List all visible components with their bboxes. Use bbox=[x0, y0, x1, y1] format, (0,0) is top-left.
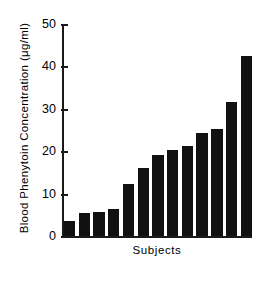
bar bbox=[167, 150, 178, 236]
x-axis-title: Subjects bbox=[62, 244, 252, 256]
y-axis-tick-label: 10 bbox=[42, 186, 56, 202]
bar bbox=[196, 133, 207, 236]
y-axis-tick: 0 bbox=[61, 236, 68, 238]
bar bbox=[226, 102, 237, 236]
bar bbox=[64, 221, 75, 236]
x-axis-line bbox=[62, 236, 252, 238]
bar bbox=[152, 155, 163, 236]
bar bbox=[123, 184, 134, 236]
bar bbox=[79, 213, 90, 236]
bar bbox=[182, 146, 193, 236]
y-axis-title: Blood Phenytoin Concentration (μg/ml) bbox=[14, 18, 34, 238]
y-axis-tick-label: 0 bbox=[49, 228, 56, 244]
y-axis-tick-label: 50 bbox=[42, 16, 56, 32]
y-axis-tick-label: 30 bbox=[42, 101, 56, 117]
bar-series bbox=[64, 24, 252, 236]
bar-chart-figure: Blood Phenytoin Concentration (μg/ml) 01… bbox=[0, 0, 265, 285]
y-axis-tick-label: 40 bbox=[42, 58, 56, 74]
bar bbox=[138, 168, 149, 236]
y-axis-tick-label: 20 bbox=[42, 143, 56, 159]
bar bbox=[241, 56, 252, 236]
bar bbox=[93, 212, 104, 236]
bar bbox=[211, 129, 222, 236]
bar bbox=[108, 209, 119, 236]
plot-area: 01020304050 bbox=[62, 24, 252, 238]
